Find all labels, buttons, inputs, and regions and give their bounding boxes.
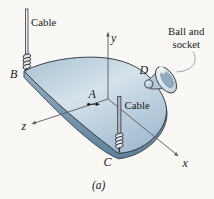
- cable-b-coil: [22, 53, 31, 70]
- cable-c-line: [118, 97, 121, 134]
- statics-figure: Cable Cable Ball and socket B D A C y z …: [0, 0, 214, 199]
- figure-caption: (a): [92, 179, 106, 192]
- point-c-label: C: [104, 155, 113, 169]
- semicircular-plate-diagram: Cable Cable Ball and socket B D A C y z …: [0, 0, 214, 199]
- ball-joint: [145, 80, 153, 88]
- point-a-label: A: [88, 87, 97, 101]
- point-d-label: D: [139, 63, 149, 77]
- point-b-label: B: [10, 67, 18, 81]
- ball-socket-label-line2: socket: [173, 38, 201, 50]
- cable-c-coil: [115, 132, 124, 149]
- z-axis-label: z: [21, 119, 27, 133]
- ball-socket-label-line1: Ball and: [168, 25, 205, 37]
- cable-b-line: [25, 9, 28, 54]
- x-axis-label: x: [182, 156, 189, 170]
- cable-b-label: Cable: [31, 16, 56, 28]
- y-axis-label: y: [110, 31, 117, 45]
- cable-c-label: Cable: [125, 99, 150, 111]
